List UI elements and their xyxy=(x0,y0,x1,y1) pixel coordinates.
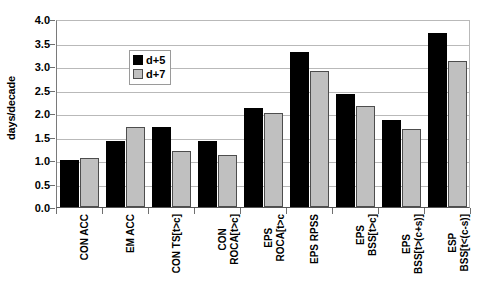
y-axis-tick-label: 4.0 xyxy=(18,15,50,26)
bar-dplus7 xyxy=(126,127,145,207)
bar-dplus5 xyxy=(106,141,125,207)
legend-swatch-icon-d5 xyxy=(133,55,143,65)
x-axis-tick-label-line: EPS RPSS xyxy=(309,214,321,264)
x-axis-tick-label: EPS RPSS xyxy=(286,214,332,296)
y-axis-tick-label: 1.0 xyxy=(18,156,50,167)
y-axis-tick-mark xyxy=(50,20,55,21)
y-axis-tick-label: 3.5 xyxy=(18,39,50,50)
bar-dplus5 xyxy=(244,108,263,207)
y-axis-tick-mark xyxy=(50,185,55,186)
y-axis-tick-label: 0.5 xyxy=(18,180,50,191)
x-axis-tick-label-line: BSS[t>(c+s)] xyxy=(413,214,425,274)
bar-group xyxy=(333,21,379,207)
legend-item-d7: d+7 xyxy=(133,67,165,81)
y-axis-title: days/decade xyxy=(5,76,17,140)
legend: d+5 d+7 xyxy=(129,50,171,85)
y-axis-tick-label: 1.5 xyxy=(18,133,50,144)
x-axis-tick-label-line: ROCA[t>c] xyxy=(229,214,241,265)
plot-area: d+5 d+7 xyxy=(56,20,470,208)
bar-dplus7 xyxy=(448,61,467,207)
x-axis-tick-mark xyxy=(470,208,471,214)
bar-dplus5 xyxy=(198,141,217,207)
x-axis-tick-label: EPSROCA[t>c xyxy=(240,214,286,296)
x-axis-tick-label: EPSBSS[t>(c+s)] xyxy=(378,214,424,296)
x-axis-tick-label-line: CON xyxy=(217,214,229,265)
bar-dplus7 xyxy=(80,158,99,207)
bar-dplus7 xyxy=(402,129,421,207)
y-axis-tick-label: 0.0 xyxy=(18,203,50,214)
x-axis-tick-label-line: EPS xyxy=(401,214,413,274)
x-axis-tick-labels: CON ACCEM ACCCON TS[t>c]CONROCA[t>c]EPSR… xyxy=(56,214,470,298)
bar-group xyxy=(57,21,103,207)
x-axis-tick-label-line: EPS xyxy=(263,214,275,262)
y-axis-tick-mark xyxy=(50,44,55,45)
x-axis-tick-label-line: ROCA[t>c xyxy=(275,214,287,262)
y-axis-tick-mark xyxy=(50,114,55,115)
bar-dplus5 xyxy=(60,160,79,207)
bar-dplus5 xyxy=(382,120,401,207)
x-axis-tick-label: CON TS[t>c] xyxy=(148,214,194,296)
x-axis-tick-label-line: EPS xyxy=(355,214,367,256)
x-axis-tick-label: ESPBSS[t<(c-s)] xyxy=(424,214,470,296)
x-axis-tick-label-line: BSS[t>c] xyxy=(367,214,379,256)
bar-dplus7 xyxy=(218,155,237,207)
y-axis-tick-labels: 4.03.53.02.52.01.51.00.50.0 xyxy=(18,14,50,208)
bar-dplus7 xyxy=(310,71,329,207)
bar-group xyxy=(195,21,241,207)
x-axis-tick-label: CON ACC xyxy=(56,214,102,296)
bar-dplus5 xyxy=(428,33,447,207)
y-axis-tick-label: 2.0 xyxy=(18,109,50,120)
y-axis-tick-mark xyxy=(50,138,55,139)
bar-dplus7 xyxy=(356,106,375,207)
x-axis-tick-label-line: BSS[t<(c-s)] xyxy=(459,214,471,272)
legend-label-d5: d+5 xyxy=(146,55,165,66)
x-axis-tick-label-line: ESP xyxy=(447,214,459,272)
legend-label-d7: d+7 xyxy=(146,69,165,80)
x-axis-tick-label-line: CON ACC xyxy=(79,214,91,260)
bar-dplus5 xyxy=(152,127,171,207)
bar-group xyxy=(241,21,287,207)
x-axis-tick-label-line: CON TS[t>c] xyxy=(171,214,183,273)
bar-dplus5 xyxy=(290,52,309,207)
bar-group xyxy=(379,21,425,207)
bar-group xyxy=(149,21,195,207)
x-axis-tick-label-line: EM ACC xyxy=(125,214,137,253)
bar-group xyxy=(103,21,149,207)
bar-group xyxy=(287,21,333,207)
y-axis-tick-mark xyxy=(50,67,55,68)
y-axis-tick-mark xyxy=(50,91,55,92)
bar-dplus7 xyxy=(264,113,283,207)
y-axis-tick-mark xyxy=(50,161,55,162)
legend-swatch-icon-d7 xyxy=(133,69,143,79)
bar-dplus5 xyxy=(336,94,355,207)
x-axis-tick-label: EPSBSS[t>c] xyxy=(332,214,378,296)
y-axis-tick-label: 3.0 xyxy=(18,62,50,73)
y-axis-tick-mark xyxy=(50,208,55,209)
y-axis-tick-label: 2.5 xyxy=(18,86,50,97)
bar-chart-figure: days/decade 4.03.53.02.52.01.51.00.50.0 … xyxy=(0,0,490,298)
x-axis-tick-label: EM ACC xyxy=(102,214,148,296)
x-axis-tick-label: CONROCA[t>c] xyxy=(194,214,240,296)
legend-item-d5: d+5 xyxy=(133,53,165,67)
bar-group xyxy=(425,21,471,207)
bar-dplus7 xyxy=(172,151,191,207)
bar-series-container xyxy=(57,21,469,207)
